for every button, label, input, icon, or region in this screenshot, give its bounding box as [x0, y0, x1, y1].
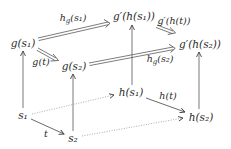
- diagram-arrows: [0, 0, 231, 149]
- edge-label-hg-s1: hg(s₁): [60, 13, 87, 26]
- node-s1: s₁: [18, 110, 28, 121]
- double-arrow-gp-h-t: [156, 25, 176, 35]
- node-g-s2: g(s₂): [62, 61, 87, 72]
- node-gp-h-s1: g′(h(s₁)): [113, 11, 155, 22]
- edge-label-h-t: h(t): [159, 91, 176, 101]
- edge-label-gp-h-t: g′(h(t)): [158, 16, 191, 26]
- node-g-s1: g(s₁): [11, 38, 36, 49]
- node-s2: s₂: [68, 133, 78, 144]
- arrow-s2-to-h-s2-dotted: [82, 118, 183, 136]
- edge-label-g-t: g(t): [32, 57, 49, 67]
- node-h-s2: h(s₂): [189, 112, 214, 123]
- edge-label-hg-s2: hg(s₂): [147, 54, 174, 67]
- node-h-s1: h(s₁): [119, 87, 144, 98]
- commutative-diagram: g(s₁) g(s₂) g′(h(s₁)) g′(h(s₂)) s₁ s₂ h(…: [0, 0, 231, 149]
- edge-label-t: t: [44, 129, 48, 139]
- node-gp-h-s2: g′(h(s₂)): [179, 39, 221, 50]
